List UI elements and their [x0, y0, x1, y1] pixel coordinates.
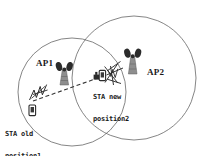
- sta-old-position-label-line1: STA old: [5, 131, 41, 138]
- sta-old-position-label-line2: position1: [5, 153, 41, 156]
- ap2-label: AP2: [147, 68, 164, 77]
- sta-new-position-label-line2: position2: [93, 116, 129, 123]
- sta-new-position-label: STA new position2: [93, 79, 129, 138]
- sta-old-position-label: STA old position1: [5, 116, 41, 156]
- sta-old-signal-icon: [30, 85, 48, 100]
- ap2-coverage-circle: [72, 16, 196, 140]
- ap1-label: AP1: [36, 59, 53, 68]
- sta-old-device-icon: [29, 105, 36, 116]
- ap1-tower-icon: [55, 61, 74, 85]
- ap2-tower-icon: [123, 48, 142, 74]
- diagram-canvas: AP1 AP2 STA old position1 STA new positi…: [0, 0, 201, 156]
- sta-new-position-label-line1: STA new: [93, 94, 129, 101]
